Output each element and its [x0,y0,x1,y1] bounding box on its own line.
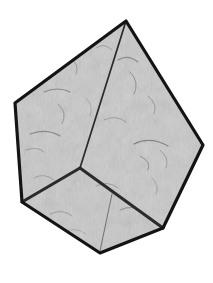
faceted-stone-figure [0,0,213,283]
illustration-canvas [0,0,213,283]
texture-noise-coarse [0,0,213,283]
stone-texture-layer [0,0,213,283]
